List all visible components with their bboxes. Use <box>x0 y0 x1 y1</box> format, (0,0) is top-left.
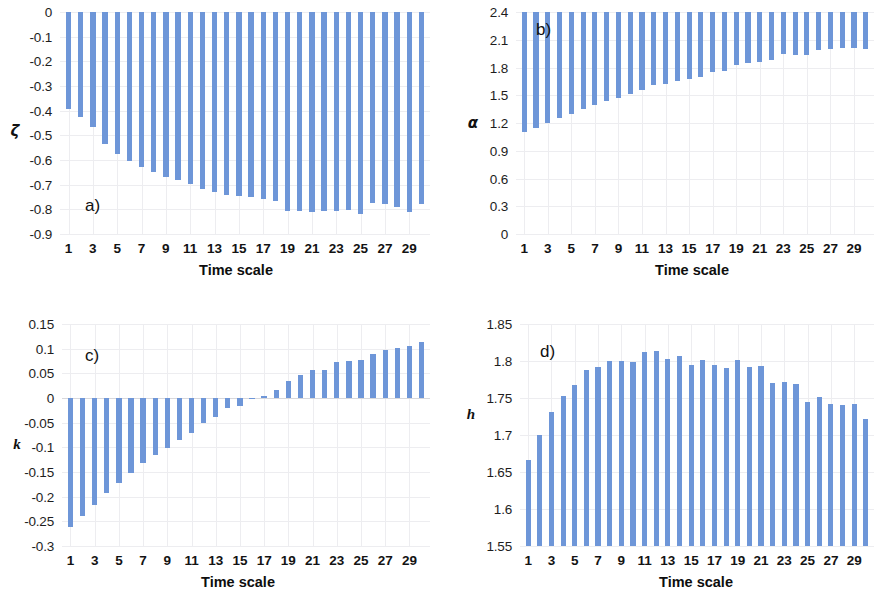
bar <box>407 346 412 398</box>
panel-c-plot-area <box>62 324 430 546</box>
bar <box>828 404 833 546</box>
panel-a-bars <box>60 12 430 234</box>
bar <box>249 398 254 399</box>
bar <box>782 382 787 546</box>
x-tick-label: 19 <box>281 553 296 568</box>
bar <box>793 12 798 55</box>
x-tick-label: 11 <box>637 553 651 568</box>
bar <box>581 12 586 109</box>
x-tick-label: 5 <box>571 553 579 568</box>
bar <box>189 398 194 433</box>
bar <box>201 398 206 423</box>
x-tick-label: 5 <box>568 241 576 256</box>
bar <box>151 12 156 172</box>
x-tick-label: 5 <box>113 241 121 256</box>
y-tick-label: -0.25 <box>24 514 54 529</box>
x-tick-label: 25 <box>799 241 814 256</box>
bar <box>322 370 327 398</box>
bar <box>334 362 339 398</box>
panel-c-x-axis-label: Time scale <box>38 574 438 590</box>
bar <box>395 348 400 398</box>
y-tick-label: 0.3 <box>490 199 508 214</box>
bar <box>700 360 705 546</box>
x-tick-label: 17 <box>257 553 272 568</box>
x-tick-label: 1 <box>65 241 73 256</box>
bar <box>630 362 635 546</box>
bar <box>66 12 71 109</box>
bar <box>522 12 527 132</box>
y-tick-label: -0.15 <box>24 465 54 480</box>
y-tick-label: -0.9 <box>30 227 52 242</box>
bar <box>346 12 351 210</box>
x-tick-label: 15 <box>232 553 247 568</box>
bar <box>675 12 680 81</box>
bar <box>310 370 315 398</box>
y-tick-label: 1.7 <box>494 428 512 443</box>
x-tick-label: 9 <box>618 553 626 568</box>
x-tick-label: 27 <box>377 241 392 256</box>
four-panel-bar-figure: ζ 0-0.1-0.2-0.3-0.4-0.5-0.6-0.7-0.8-0.9 … <box>0 0 888 605</box>
bar <box>851 12 856 48</box>
x-tick-label: 23 <box>329 241 344 256</box>
bar <box>770 383 775 546</box>
bar <box>358 12 363 214</box>
bar <box>863 12 868 49</box>
y-tick-label: 1.5 <box>490 88 508 103</box>
bar <box>163 12 168 177</box>
x-tick-label: 7 <box>591 241 599 256</box>
panel-a-tag: a) <box>85 196 100 216</box>
bar <box>237 398 242 406</box>
x-tick-label: 19 <box>280 241 295 256</box>
x-tick-label: 11 <box>635 241 649 256</box>
bar <box>817 397 822 546</box>
x-tick-label: 15 <box>684 553 699 568</box>
bar <box>651 12 656 85</box>
y-tick-label: 1.75 <box>487 391 512 406</box>
bar <box>115 12 120 154</box>
bar <box>549 412 554 546</box>
bar <box>572 385 577 546</box>
x-tick-label: 1 <box>524 553 532 568</box>
bar <box>735 360 740 546</box>
bar <box>663 12 668 84</box>
bar <box>104 398 109 493</box>
bar <box>677 356 682 546</box>
bar <box>607 361 612 546</box>
x-tick-label: 9 <box>162 241 170 256</box>
y-tick-label: 1.65 <box>487 465 512 480</box>
x-tick-label: 7 <box>594 553 602 568</box>
x-tick-label: 1 <box>520 241 528 256</box>
x-tick-label: 9 <box>164 553 172 568</box>
panel-b: α 2.42.11.81.51.20.90.60.30 b) 135791113… <box>444 0 888 302</box>
bar <box>153 398 158 455</box>
bar <box>698 12 703 77</box>
bar <box>722 12 727 71</box>
y-tick-label: 1.2 <box>490 116 508 131</box>
panel-d-bars <box>520 324 874 546</box>
bar <box>358 360 363 398</box>
bar <box>78 12 83 117</box>
x-tick-label: 21 <box>305 553 320 568</box>
panel-b-plot-area <box>516 12 874 234</box>
gridline-horizontal <box>520 546 874 547</box>
bar <box>127 12 132 161</box>
x-tick-label: 29 <box>402 553 417 568</box>
bar <box>604 12 609 101</box>
bar <box>526 460 531 546</box>
bar <box>248 12 253 197</box>
panel-d-x-axis-label: Time scale <box>496 574 888 590</box>
bar <box>757 12 762 62</box>
x-tick-label: 13 <box>660 553 675 568</box>
y-tick-label: 0 <box>501 227 508 242</box>
bar <box>561 396 566 546</box>
x-tick-label: 17 <box>705 241 720 256</box>
y-tick-label: 0.1 <box>36 341 54 356</box>
bar <box>309 12 314 212</box>
x-tick-label: 21 <box>754 553 769 568</box>
bar <box>805 402 810 546</box>
bar <box>286 381 291 398</box>
bar <box>712 365 717 546</box>
panel-a-x-axis-label: Time scale <box>36 262 436 278</box>
bar <box>140 398 145 463</box>
bar <box>188 12 193 184</box>
